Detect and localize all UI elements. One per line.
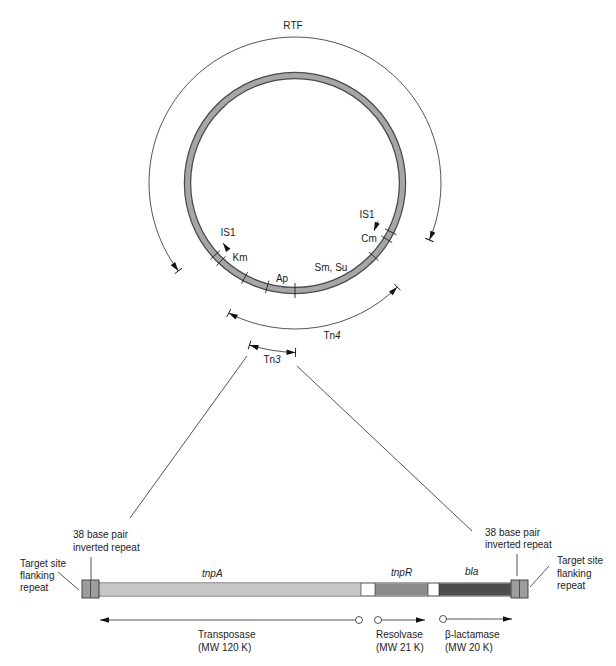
- marker-km: Km: [233, 252, 248, 263]
- right-flanking-label-2: flanking: [557, 568, 591, 579]
- product-label-beta-lactamase: β-lactamase: [445, 629, 500, 640]
- tn4-number: 4: [335, 330, 341, 341]
- right-flanking-label-3: repeat: [557, 580, 586, 591]
- tn3-span-arc: [250, 345, 296, 353]
- gene-label-tnpA: tnpA: [202, 568, 223, 579]
- right-inverted-repeat-label-2: inverted repeat: [485, 539, 552, 550]
- left-flanking-pointer: [58, 572, 79, 590]
- right-flanking-pointer: [530, 566, 549, 587]
- resolvase-start-circle: [375, 617, 382, 624]
- marker-sm-su: Sm, Su: [315, 262, 348, 273]
- product-mw-resolvase: (MW 21 K): [376, 642, 424, 653]
- right-inverted-repeat-label-1: 38 base pair: [485, 527, 541, 538]
- right-flanking-label-1: Target site: [557, 555, 604, 566]
- expansion-line-left: [130, 356, 247, 518]
- left-inverted-repeat-label-2: inverted repeat: [73, 542, 140, 553]
- product-mw-transposase: (MW 120 K): [198, 642, 251, 653]
- gene-label-bla: bla: [465, 566, 479, 577]
- marker-is1-right: IS1: [359, 209, 374, 220]
- tn4-span-arc: [229, 287, 398, 329]
- is1-left-direction-arrow: [223, 243, 228, 250]
- tn3-linear-map: 38 base pair inverted repeat Target site…: [20, 527, 604, 653]
- tn3-prefix: Tn: [263, 354, 275, 365]
- left-repeat-box: [82, 580, 99, 598]
- product-label-transposase: Transposase: [198, 629, 256, 640]
- marker-is1-left: IS1: [220, 227, 235, 238]
- plasmid-label: RTF: [283, 20, 302, 31]
- left-inverted-repeat-label-1: 38 base pair: [73, 529, 129, 540]
- gene-label-tnpR: tnpR: [391, 567, 412, 578]
- gene-segment-tnpA: [100, 584, 362, 596]
- plasmid-map: RTF IS1 Km Ap Sm, Su IS1 Cm Tn4: [149, 20, 441, 365]
- transposon-diagram: RTF IS1 Km Ap Sm, Su IS1 Cm Tn4: [0, 0, 616, 666]
- transcript-transposase: [100, 617, 363, 624]
- right-repeat-box: [511, 580, 528, 598]
- left-flanking-label-2: flanking: [20, 570, 54, 581]
- product-mw-beta-lactamase: (MW 20 K): [445, 642, 493, 653]
- gene-segment-tnpR: [375, 584, 428, 596]
- beta-lactamase-start-circle: [440, 616, 447, 623]
- is1-right-direction-arrow: [374, 221, 378, 231]
- tn4-label: Tn4: [323, 330, 341, 341]
- transcript-beta-lactamase: [440, 616, 513, 623]
- tn3-label: Tn3: [263, 354, 281, 365]
- gene-segment-bla: [439, 584, 511, 596]
- marker-cm: Cm: [361, 233, 377, 244]
- transcript-resolvase: [375, 617, 426, 624]
- plasmid-ring: [188, 76, 403, 291]
- marker-ap: Ap: [276, 273, 289, 284]
- tn3-number: 3: [275, 354, 281, 365]
- expansion-line-right: [297, 366, 472, 531]
- left-flanking-label-1: Target site: [20, 558, 67, 569]
- left-flanking-label-3: repeat: [20, 582, 49, 593]
- product-label-resolvase: Resolvase: [376, 629, 423, 640]
- transposase-start-circle: [356, 617, 363, 624]
- tn4-prefix: Tn: [323, 330, 335, 341]
